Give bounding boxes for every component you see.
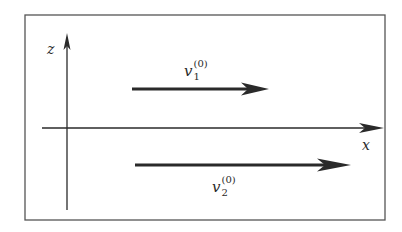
v1-label: v(0)1 — [184, 64, 212, 80]
v2-superscript: (0) — [221, 175, 235, 185]
diagram-canvas — [0, 0, 402, 232]
v1-subscript: 1 — [193, 72, 199, 82]
v2-label: v(0)2 — [212, 180, 240, 196]
z-axis-label: z — [47, 42, 54, 56]
x-axis-label: x — [362, 138, 370, 152]
v2-subscript: 2 — [221, 188, 227, 198]
diagram-frame — [25, 15, 385, 220]
v1-symbol: v — [184, 62, 192, 80]
v1-superscript: (0) — [193, 59, 207, 69]
v2-symbol: v — [212, 178, 220, 196]
